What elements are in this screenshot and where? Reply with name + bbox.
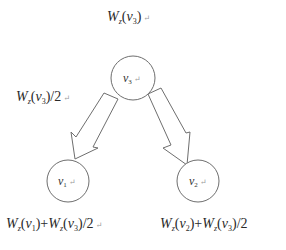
weight-symbol: W <box>160 216 172 231</box>
weight-symbol: W <box>202 216 214 231</box>
vertex-subscript: 3 <box>228 224 232 233</box>
node-v3-sub: 3 <box>128 78 132 86</box>
node-v1-label: v1↵ <box>58 175 76 189</box>
weight-subscript: z <box>28 97 31 106</box>
vertex-subscript: 2 <box>186 224 190 233</box>
return-mark-icon: ↵ <box>200 178 207 187</box>
divide-by-two: /2 <box>50 89 61 104</box>
weight-subscript: z <box>18 224 21 233</box>
weight-subscript: z <box>172 224 175 233</box>
node-v1-sub: 1 <box>63 181 67 189</box>
label-v2-result: Wz(v2)+Wz(v3)/2 <box>160 217 248 233</box>
return-mark-icon: ↵ <box>134 75 141 84</box>
weight-subscript: z <box>119 17 122 26</box>
vertex-subscript: 3 <box>74 224 78 233</box>
label-top-weight: Wz(v3)↵ <box>107 10 150 26</box>
weight-symbol: W <box>107 9 119 24</box>
vertex-subscript: 3 <box>42 97 46 106</box>
node-v2-sub: 2 <box>194 181 198 189</box>
arrow-v3-to-v2 <box>148 88 190 165</box>
label-v1-result: Wz(v1)+Wz(v3)/2↵ <box>6 217 102 233</box>
label-edge-half-weight: Wz(v3)/2↵ <box>16 90 70 106</box>
weight-subscript: z <box>214 224 217 233</box>
return-mark-icon: ↵ <box>69 178 76 187</box>
node-v3-label: v3↵ <box>123 72 141 86</box>
divide-by-two: /2 <box>83 216 94 231</box>
arrow-v3-to-v1 <box>71 93 118 159</box>
return-mark-icon: ↵ <box>63 94 70 103</box>
node-v2-label: v2↵ <box>189 175 207 189</box>
divide-by-two: /2 <box>237 216 248 231</box>
weight-symbol: W <box>48 216 60 231</box>
return-mark-icon: ↵ <box>143 14 150 23</box>
vertex-subscript: 1 <box>32 224 36 233</box>
diagram-canvas: v3↵ v1↵ v2↵ Wz(v3)↵ Wz(v3)/2↵ Wz(v1)+Wz(… <box>0 0 286 250</box>
diagram-graphics <box>0 0 286 250</box>
weight-symbol: W <box>6 216 18 231</box>
vertex-subscript: 3 <box>133 17 137 26</box>
weight-subscript: z <box>60 224 63 233</box>
weight-symbol: W <box>16 89 28 104</box>
return-mark-icon: ↵ <box>96 221 103 230</box>
